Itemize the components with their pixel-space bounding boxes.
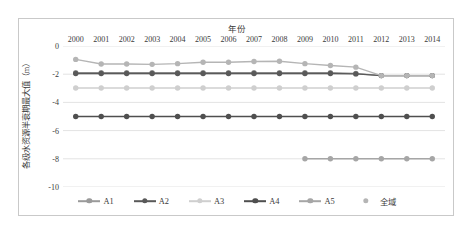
series-A4 — [73, 114, 435, 119]
data-point — [175, 114, 180, 119]
data-point — [353, 64, 358, 69]
data-point — [124, 85, 129, 90]
legend-dot — [363, 198, 368, 203]
y-tick-label: -10 — [48, 183, 59, 192]
y-tick-label: 0 — [55, 42, 59, 51]
data-point — [200, 85, 205, 90]
data-point — [404, 85, 409, 90]
data-point — [353, 71, 358, 76]
data-point — [73, 114, 78, 119]
data-point — [175, 71, 180, 76]
data-point — [73, 85, 78, 90]
legend-dot — [142, 198, 147, 203]
y-axis-title: 各级水资源半衰期最大值（m） — [17, 39, 33, 189]
data-point — [73, 71, 78, 76]
legend-label: 全域 — [380, 195, 396, 207]
data-point — [302, 114, 307, 119]
data-point — [149, 62, 154, 67]
data-point — [353, 156, 358, 161]
data-point — [328, 85, 333, 90]
legend-marker-icon — [78, 197, 100, 206]
data-point — [302, 61, 307, 66]
data-point — [124, 71, 129, 76]
series-A5 — [302, 156, 435, 161]
data-point — [379, 85, 384, 90]
data-point — [328, 63, 333, 68]
legend-label: A4 — [269, 197, 279, 206]
legend-item-A2[interactable]: A2 — [134, 197, 169, 206]
data-point — [277, 85, 282, 90]
legend-item-A4[interactable]: A4 — [244, 197, 279, 206]
data-point — [430, 114, 435, 119]
data-point — [251, 114, 256, 119]
plot-area — [63, 46, 445, 187]
legend-dot — [87, 198, 92, 203]
data-point — [302, 156, 307, 161]
legend-marker-icon — [299, 197, 321, 206]
data-point — [328, 114, 333, 119]
data-point — [379, 73, 384, 78]
data-point — [175, 61, 180, 66]
legend-label: A2 — [159, 197, 169, 206]
legend-marker-icon — [355, 197, 377, 206]
data-point — [379, 156, 384, 161]
chart-legend: A1A2A3A4A5全域 — [19, 195, 455, 207]
data-point — [251, 85, 256, 90]
data-point — [353, 114, 358, 119]
data-point — [328, 71, 333, 76]
plot-svg — [63, 46, 445, 187]
legend-item-A5[interactable]: A5 — [299, 197, 334, 206]
data-point — [149, 85, 154, 90]
data-point — [353, 85, 358, 90]
data-point — [226, 60, 231, 65]
data-point — [430, 73, 435, 78]
data-point — [226, 114, 231, 119]
data-point — [430, 85, 435, 90]
data-point — [200, 60, 205, 65]
legend-marker-icon — [244, 197, 266, 206]
data-point — [404, 114, 409, 119]
data-point — [99, 61, 104, 66]
data-point — [251, 59, 256, 64]
legend-marker-icon — [189, 197, 211, 206]
data-point — [277, 59, 282, 64]
data-point — [277, 114, 282, 119]
legend-label: A1 — [103, 197, 113, 206]
data-point — [73, 57, 78, 62]
data-point — [302, 85, 307, 90]
data-point — [200, 71, 205, 76]
legend-dot — [197, 198, 202, 203]
data-point — [149, 114, 154, 119]
x-axis-title: 年份 — [19, 22, 455, 34]
y-axis-title-text: 各级水资源半衰期最大值（m） — [19, 59, 31, 169]
data-point — [99, 85, 104, 90]
screenshot-root: 年份 2000200120022003200420052006200720082… — [0, 0, 473, 233]
data-point — [379, 114, 384, 119]
data-point — [175, 85, 180, 90]
y-axis-tick-labels: 0-2-4-6-8-10 — [33, 46, 59, 187]
chart-container: 年份 2000200120022003200420052006200720082… — [18, 18, 454, 216]
legend-item-全域[interactable]: 全域 — [355, 195, 396, 207]
data-point — [277, 71, 282, 76]
legend-label: A5 — [324, 197, 334, 206]
legend-item-A3[interactable]: A3 — [189, 197, 224, 206]
data-point — [328, 156, 333, 161]
y-tick-label: -8 — [52, 154, 59, 163]
data-point — [430, 156, 435, 161]
data-point — [99, 114, 104, 119]
y-tick-label: -6 — [52, 126, 59, 135]
data-point — [99, 71, 104, 76]
data-point — [124, 114, 129, 119]
data-point — [124, 61, 129, 66]
data-point — [226, 71, 231, 76]
legend-dot — [252, 198, 257, 203]
legend-item-A1[interactable]: A1 — [78, 197, 113, 206]
legend-label: A3 — [214, 197, 224, 206]
data-point — [404, 156, 409, 161]
legend-marker-icon — [134, 197, 156, 206]
legend-dot — [308, 198, 313, 203]
y-tick-label: -2 — [52, 70, 59, 79]
data-point — [200, 114, 205, 119]
data-point — [226, 85, 231, 90]
data-point — [404, 73, 409, 78]
